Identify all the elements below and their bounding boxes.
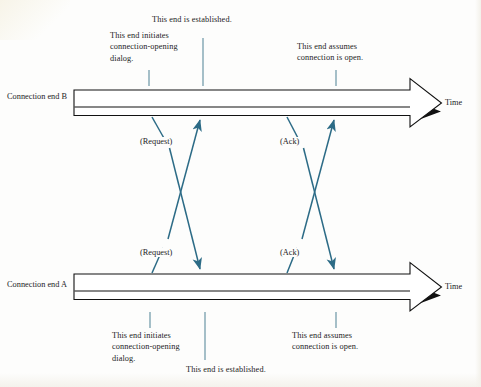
annotation-b-established: This end is established. — [152, 14, 282, 25]
ack-b-to-a-seg2 — [304, 148, 335, 269]
ack-a-to-b-seg2 — [302, 120, 334, 239]
annotation-a-assumes-open: This end assumes connection is open. — [292, 330, 402, 353]
annotation-b-assumes-open: This end assumes connection is open. — [297, 41, 407, 64]
timeline-a-label: Connection end A — [0, 279, 67, 290]
timeline-a-time-label: Time — [445, 282, 462, 291]
annotation-a-initiates: This end initiates connection-opening di… — [112, 330, 212, 364]
message-label-request-b-to-a: (Request) — [138, 137, 174, 146]
timeline-a-bar — [74, 263, 442, 312]
timing-diagram: This end initiates connection-opening di… — [0, 0, 481, 387]
timeline-b-time-label: Time — [445, 98, 462, 107]
timeline-end-a — [74, 263, 442, 312]
diagram-canvas — [0, 0, 481, 387]
annotation-a-established: This end is established. — [186, 364, 326, 375]
message-label-ack-b-to-a: (Ack) — [278, 137, 301, 146]
message-label-request-a-to-b: (Request) — [138, 248, 174, 257]
timeline-b-bar — [74, 79, 442, 128]
timeline-b-label: Connection end B — [0, 91, 67, 102]
annotation-b-initiates: This end initiates connection-opening di… — [110, 30, 210, 64]
message-label-ack-a-to-b: (Ack) — [278, 248, 301, 257]
timeline-end-b — [74, 79, 442, 128]
